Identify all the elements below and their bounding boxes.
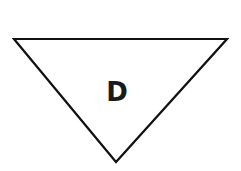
diagram-canvas: D bbox=[0, 0, 241, 171]
triangle-label: D bbox=[106, 77, 128, 107]
